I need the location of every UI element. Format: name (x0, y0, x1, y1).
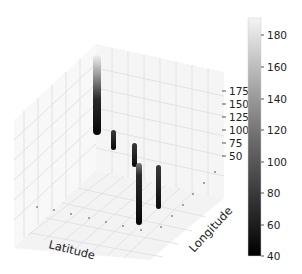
z-axis: 175 150 125 100 75 50 (222, 85, 249, 162)
cluster-5 (156, 165, 161, 209)
cbar-tick-60: 60 (267, 219, 280, 231)
cbar-tick-40: 40 (267, 250, 280, 262)
z-tick-100: 100 (229, 124, 249, 136)
cluster-1 (93, 55, 101, 135)
cbar-tick-80: 80 (267, 187, 280, 199)
cbar-tick-140: 140 (267, 93, 287, 105)
z-tick-150: 150 (229, 98, 249, 110)
cbar-tick-100: 100 (267, 156, 287, 168)
3d-scatter-figure: 175 150 125 100 75 50 Latitude Longitude… (0, 0, 302, 274)
cluster-3 (132, 143, 137, 167)
pane-grid (14, 44, 224, 260)
z-tick-175: 175 (229, 85, 249, 97)
colorbar: 180 160 140 120 100 80 60 40 (248, 18, 287, 262)
z-tick-125: 125 (229, 111, 249, 123)
cbar-tick-160: 160 (267, 61, 287, 73)
cluster-4 (136, 163, 142, 225)
z-tick-50: 50 (229, 150, 242, 162)
cluster-2 (111, 130, 116, 150)
cbar-tick-180: 180 (267, 29, 287, 41)
cbar-tick-120: 120 (267, 124, 287, 136)
colorbar-gradient (248, 18, 261, 256)
z-tick-75: 75 (229, 137, 242, 149)
